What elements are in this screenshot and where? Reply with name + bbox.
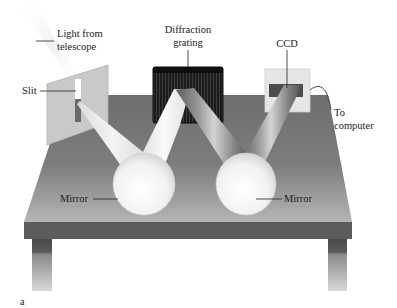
table-leg-right [328,239,347,291]
spectrograph-diagram: Light from telescope Slit Diffraction gr… [0,0,397,308]
label-slit: Slit [22,85,37,96]
diagram-canvas: Light from telescope Slit Diffraction gr… [0,0,397,308]
label-mirror-left: Mirror [60,193,88,204]
mirror-right [216,153,276,215]
table-edge [24,222,352,239]
label-telescope: telescope [57,41,96,52]
mirror-left [113,153,175,215]
slit-opening-top [75,79,81,99]
label-light-from: Light from [57,28,103,39]
label-mirror-right: Mirror [284,193,312,204]
label-diffraction: Diffraction [165,24,212,35]
label-ccd: CCD [276,38,298,49]
table-leg-left [32,239,52,291]
grating-top-edge [153,67,223,73]
label-to: To [334,107,345,118]
label-computer: computer [334,120,374,131]
panel-label: a [20,296,25,307]
label-grating: grating [173,37,203,48]
